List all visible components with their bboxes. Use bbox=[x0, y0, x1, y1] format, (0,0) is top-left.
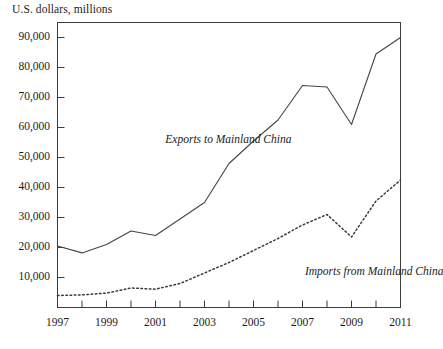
series-line bbox=[58, 38, 401, 253]
x-axis-tick-label: 2007 bbox=[281, 316, 325, 328]
y-axis-tick-label: 90,000 bbox=[0, 30, 50, 42]
y-axis-tick-label: 40,000 bbox=[0, 180, 50, 192]
series-line bbox=[58, 180, 401, 296]
y-axis-tick-label: 10,000 bbox=[0, 270, 50, 282]
y-axis-tick-label: 60,000 bbox=[0, 120, 50, 132]
y-axis-tick-label: 50,000 bbox=[0, 150, 50, 162]
y-axis-tick-label: 70,000 bbox=[0, 90, 50, 102]
y-axis-tick-label: 30,000 bbox=[0, 210, 50, 222]
y-axis-tick-label: 20,000 bbox=[0, 240, 50, 252]
x-axis-tick-label: 2003 bbox=[183, 316, 227, 328]
x-axis-tick-label: 2009 bbox=[330, 316, 374, 328]
data-series-group bbox=[58, 38, 401, 296]
x-axis-tick-label: 2005 bbox=[232, 316, 276, 328]
x-axis-ticks bbox=[58, 301, 401, 308]
series-annotation-label: Imports from Mainland China bbox=[305, 265, 443, 277]
series-annotation-label: Exports to Mainland China bbox=[165, 133, 291, 145]
x-axis-tick-label: 1997 bbox=[36, 316, 80, 328]
x-axis-tick-label: 1999 bbox=[85, 316, 129, 328]
x-axis-tick-label: 2011 bbox=[379, 316, 423, 328]
y-axis-tick-label: 80,000 bbox=[0, 60, 50, 72]
y-axis-ticks bbox=[58, 38, 65, 278]
x-axis-tick-label: 2001 bbox=[134, 316, 178, 328]
